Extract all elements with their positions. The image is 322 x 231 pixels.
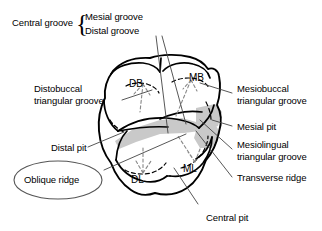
distolingual-triangular-groove-dash — [125, 163, 166, 174]
cusp-label-mesiobuccal: MB — [189, 72, 204, 83]
dental-anatomy-figure: Central groove { Mesial groove Distal gr… — [0, 0, 322, 231]
label-central-groove: Central groove — [12, 17, 73, 28]
label-mesiolingual-triangular-groove: Mesiolingual triangular groove — [237, 139, 307, 162]
cusp-label-mesiolingual: ML — [183, 163, 197, 174]
label-distal-pit: Distal pit — [51, 142, 86, 153]
label-oblique-ridge: Oblique ridge — [24, 174, 79, 185]
leader-mesiobuccal-triangular-groove — [200, 83, 232, 93]
label-mesial-pit: Mesial pit — [237, 121, 276, 132]
label-mesiobuccal-triangular-groove: Mesiobuccal triangular groove — [237, 83, 307, 106]
cusp-label-distobuccal: DB — [129, 78, 143, 89]
label-distobuccal-triangular-groove: Distobuccal triangular groove — [34, 83, 104, 106]
cusp-label-distolingual: DL — [131, 174, 144, 185]
label-transverse-ridge: Transverse ridge — [237, 172, 306, 183]
tooth-occlusal-diagram — [0, 0, 322, 231]
label-central-pit: Central pit — [206, 212, 248, 223]
label-distal-groove: Distal groove — [85, 25, 139, 36]
leader-distobuccal-triangular-groove — [122, 90, 152, 100]
label-mesial-groove: Mesial groove — [85, 11, 143, 22]
distobuccal-cusp-ridge — [111, 63, 160, 74]
